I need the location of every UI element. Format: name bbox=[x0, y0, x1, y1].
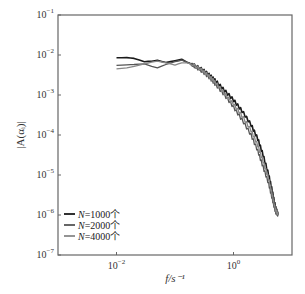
x-tick-label: 100 bbox=[227, 258, 241, 271]
y-tick-label: 10−2 bbox=[37, 47, 55, 60]
y-tick-label: 10−4 bbox=[37, 127, 55, 140]
x-tick-label: 10−2 bbox=[108, 258, 126, 271]
y-tick-label: 10−3 bbox=[37, 87, 55, 100]
series-line bbox=[117, 61, 279, 215]
y-tick-label: 10−7 bbox=[37, 247, 55, 260]
legend-label: N=2000个 bbox=[77, 220, 120, 231]
y-tick-label: 10−5 bbox=[37, 167, 55, 180]
x-axis-label: f/s⁻¹ bbox=[165, 272, 185, 284]
legend-label: N=1000个 bbox=[77, 209, 120, 220]
plot-area bbox=[117, 58, 279, 217]
y-tick-label: 10−1 bbox=[37, 7, 55, 20]
legend: N=1000个N=2000个N=4000个 bbox=[64, 209, 120, 242]
series-line bbox=[117, 60, 279, 216]
log-log-line-chart: 10−110−210−310−410−510−610−7 10−2100 |A(… bbox=[0, 0, 305, 294]
y-tick-label: 10−6 bbox=[37, 207, 55, 220]
legend-label: N=4000个 bbox=[77, 231, 120, 242]
y-axis-ticks: 10−110−210−310−410−510−610−7 bbox=[37, 7, 61, 260]
y-axis-label: |A(αᵢ)| bbox=[14, 121, 27, 148]
